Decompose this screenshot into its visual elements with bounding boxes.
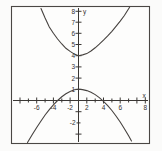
coordinate-plot: -6 -4 -2 2 4 6 8 8 7 6 5 4 3 2 1 -2 y x [0,0,162,151]
x-tick-label: 8 [143,104,147,111]
y-tick-label: 1 [71,86,75,93]
x-tick-label: 4 [102,104,106,111]
y-tick-label: 5 [71,41,75,48]
y-tick-label: 8 [71,8,75,15]
y-tick-label: 6 [71,30,75,37]
x-tick-label: -6 [34,104,40,111]
x-tick-label: -4 [51,104,57,111]
y-tick-label: 3 [71,63,75,70]
y-tick-label: 2 [71,75,75,82]
x-tick-label: -2 [67,104,73,111]
graph-figure: -6 -4 -2 2 4 6 8 8 7 6 5 4 3 2 1 -2 y x [0,0,162,151]
y-tick-label: -2 [70,119,76,126]
y-tick-label: 7 [71,19,75,26]
x-tick-label: 6 [118,104,122,111]
x-tick-label: 2 [85,104,89,111]
y-tick-label: 4 [71,52,75,59]
